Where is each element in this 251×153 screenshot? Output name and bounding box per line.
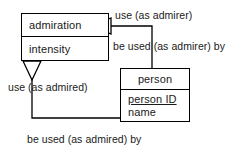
attributes-person: person ID name bbox=[121, 90, 189, 122]
class-name-admiration-label: admiration bbox=[29, 19, 81, 31]
edge-label-be-used-as-admired-by: be used (as admired) by bbox=[27, 133, 141, 145]
edge-label-be-used-as-admirer-by: be used (as admirer) by bbox=[113, 40, 225, 52]
attribute-name: name bbox=[128, 106, 156, 118]
class-name-admiration: admiration bbox=[22, 14, 108, 37]
edge-label-use-as-admired: use (as admired) bbox=[8, 81, 88, 93]
diagram-canvas: admiration intensity person person ID na… bbox=[0, 0, 251, 153]
class-box-person[interactable]: person person ID name bbox=[120, 68, 190, 122]
edge-label-use-as-admirer: use (as admirer) bbox=[115, 9, 192, 21]
class-box-admiration[interactable]: admiration intensity bbox=[21, 13, 109, 61]
class-name-person-label: person bbox=[138, 73, 172, 85]
arrowhead-admired-icon bbox=[23, 61, 41, 80]
class-name-person: person bbox=[121, 69, 189, 90]
attribute-intensity: intensity bbox=[29, 43, 70, 55]
attributes-admiration: intensity bbox=[22, 37, 108, 61]
attribute-person-id: person ID bbox=[128, 93, 177, 105]
